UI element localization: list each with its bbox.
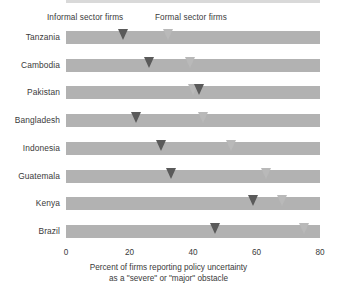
x-tick-80: 80 xyxy=(315,248,324,257)
row-band xyxy=(66,31,320,44)
marker-formal-kenya xyxy=(277,195,287,206)
row-band xyxy=(66,114,320,127)
marker-informal-cambodia xyxy=(144,57,154,68)
row-label-guatemala: Guatemala xyxy=(0,170,60,183)
x-axis-ticks: 020406080 xyxy=(0,248,337,260)
marker-informal-pakistan xyxy=(194,84,204,95)
legend-label-informal: Informal sector firms xyxy=(47,13,123,22)
x-tick-20: 20 xyxy=(125,248,134,257)
row-label-kenya: Kenya xyxy=(0,197,60,210)
row-label-cambodia: Cambodia xyxy=(0,59,60,72)
marker-formal-brazil xyxy=(299,223,309,234)
marker-informal-indonesia xyxy=(156,140,166,151)
chart-row: Kenya xyxy=(0,197,337,210)
marker-formal-guatemala xyxy=(261,168,271,179)
clipped-band-top xyxy=(66,0,320,3)
marker-informal-kenya xyxy=(248,195,258,206)
x-axis-caption: Percent of firms reporting policy uncert… xyxy=(0,263,337,284)
marker-formal-bangladesh xyxy=(198,112,208,123)
chart-row: Indonesia xyxy=(0,142,337,155)
caption-line-2: as a "severe" or "major" obstacle xyxy=(0,274,337,285)
policy-uncertainty-chart: Informal sector firms Formal sector firm… xyxy=(0,0,337,289)
row-label-bangladesh: Bangladesh xyxy=(0,114,60,127)
chart-row: Bangladesh xyxy=(0,114,337,127)
chart-row: Brazil xyxy=(0,225,337,238)
marker-informal-brazil xyxy=(210,223,220,234)
x-tick-60: 60 xyxy=(252,248,261,257)
legend-label-formal: Formal sector firms xyxy=(155,13,227,22)
row-label-brazil: Brazil xyxy=(0,225,60,238)
chart-row: Cambodia xyxy=(0,59,337,72)
marker-formal-cambodia xyxy=(185,57,195,68)
marker-formal-tanzania xyxy=(163,29,173,40)
row-band xyxy=(66,225,320,238)
row-label-pakistan: Pakistan xyxy=(0,86,60,99)
x-tick-0: 0 xyxy=(64,248,69,257)
marker-formal-indonesia xyxy=(226,140,236,151)
row-label-tanzania: Tanzania xyxy=(0,31,60,44)
marker-informal-tanzania xyxy=(118,29,128,40)
marker-informal-bangladesh xyxy=(131,112,141,123)
plot-area: TanzaniaCambodiaPakistanBangladeshIndone… xyxy=(0,28,337,246)
caption-line-1: Percent of firms reporting policy uncert… xyxy=(0,263,337,274)
x-tick-40: 40 xyxy=(188,248,197,257)
chart-row: Tanzania xyxy=(0,31,337,44)
row-label-indonesia: Indonesia xyxy=(0,142,60,155)
row-band xyxy=(66,170,320,183)
row-band xyxy=(66,142,320,155)
chart-row: Pakistan xyxy=(0,86,337,99)
marker-informal-guatemala xyxy=(166,168,176,179)
chart-legend: Informal sector firms Formal sector firm… xyxy=(0,13,337,26)
chart-row: Guatemala xyxy=(0,170,337,183)
